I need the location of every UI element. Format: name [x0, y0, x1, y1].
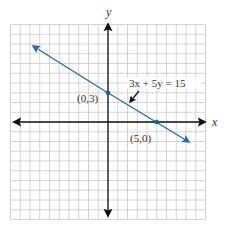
equation-line	[33, 46, 100, 88]
coordinate-graph: x y (0,3) (5,0) 3x + 5y = 15	[0, 0, 228, 235]
point-0-3-label: (0,3)	[77, 92, 98, 105]
equation-label: 3x + 5y = 15	[129, 77, 186, 89]
point-0-3	[106, 91, 111, 96]
point-5-0-label: (5,0)	[130, 132, 151, 145]
x-axis-label: x	[211, 115, 218, 129]
point-5-0	[155, 120, 160, 125]
y-axis-label: y	[105, 5, 112, 19]
